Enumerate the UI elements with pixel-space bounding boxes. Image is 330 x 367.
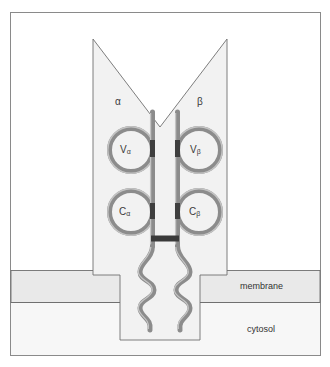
v-beta-subscript: β — [197, 148, 201, 155]
c-alpha-subscript: α — [126, 210, 130, 217]
tcr-diagram-svg — [0, 0, 330, 367]
beta-chain-label: β — [197, 96, 203, 107]
c-beta-subscript: β — [196, 210, 200, 217]
v-alpha-subscript: α — [127, 148, 131, 155]
membrane-label: membrane — [240, 281, 283, 291]
c-alpha-label: Cα — [119, 206, 130, 217]
c-beta-label: Cβ — [189, 206, 200, 217]
cytosol-label: cytosol — [247, 324, 275, 334]
v-alpha-letter: V — [120, 144, 127, 155]
figure-canvas: α β Vα Vβ Cα Cβ membrane cytosol — [0, 0, 330, 367]
alpha-chain-label: α — [115, 96, 121, 107]
v-beta-label: Vβ — [190, 144, 201, 155]
v-beta-letter: V — [190, 144, 197, 155]
v-alpha-label: Vα — [120, 144, 131, 155]
